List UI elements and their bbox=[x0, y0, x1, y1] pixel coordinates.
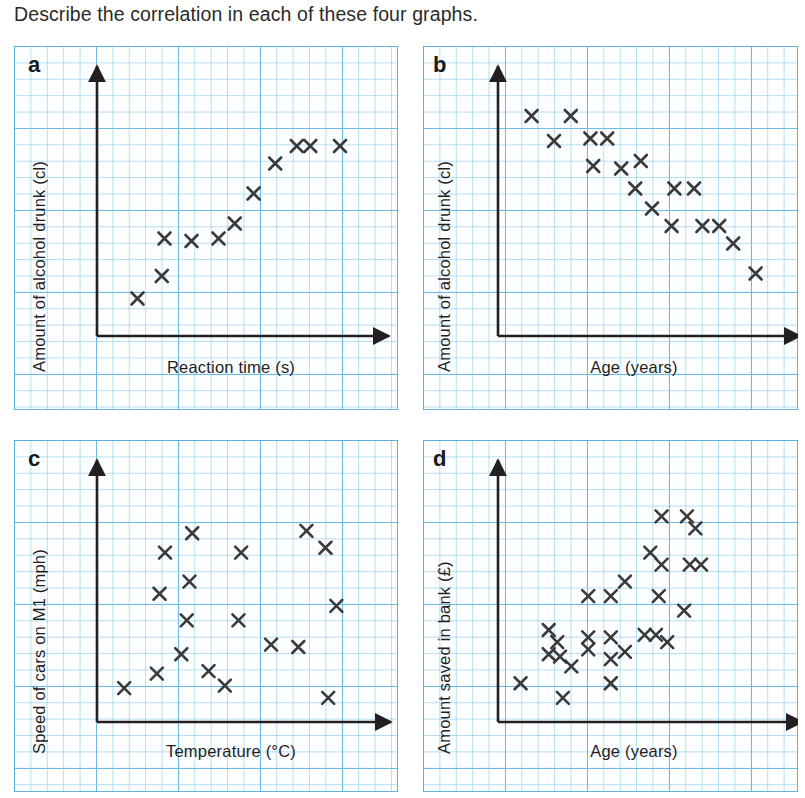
data-point-cross-marker bbox=[619, 576, 631, 588]
data-point-cross-marker bbox=[656, 559, 668, 571]
data-point-cross-marker bbox=[132, 293, 144, 305]
data-point-cross-marker bbox=[629, 183, 641, 195]
data-point-cross-marker bbox=[515, 677, 527, 689]
data-point-cross-marker bbox=[695, 559, 707, 571]
data-point-cross-marker bbox=[159, 547, 171, 559]
panel-letter-b: b bbox=[433, 54, 446, 76]
scatter-plot-c bbox=[14, 440, 398, 792]
data-point-cross-marker bbox=[183, 576, 195, 588]
data-point-cross-marker bbox=[159, 233, 171, 245]
data-point-cross-marker bbox=[229, 218, 241, 230]
data-point-cross-marker bbox=[322, 692, 334, 704]
graph-panel-d: d Amount saved in bank (£) Age (years) bbox=[423, 440, 798, 792]
data-point-cross-marker bbox=[584, 133, 596, 145]
data-point-cross-marker bbox=[656, 510, 668, 522]
data-point-cross-marker bbox=[181, 614, 193, 626]
data-point-group bbox=[118, 525, 342, 704]
data-point-cross-marker bbox=[601, 133, 613, 145]
graph-panel-a: a Amount of alcohol drunk (cl) Reaction … bbox=[14, 46, 398, 410]
data-point-cross-marker bbox=[269, 158, 281, 170]
data-point-cross-marker bbox=[334, 140, 346, 152]
data-point-cross-marker bbox=[639, 629, 651, 641]
x-axis-label-b: Age (years) bbox=[489, 358, 779, 377]
data-point-cross-marker bbox=[156, 270, 168, 282]
data-point-cross-marker bbox=[582, 590, 594, 602]
data-point-cross-marker bbox=[248, 188, 260, 200]
data-point-group bbox=[515, 510, 707, 704]
x-axis-label-d: Age (years) bbox=[489, 742, 779, 761]
y-axis-label-c: Speed of cars on M1 (mph) bbox=[30, 472, 49, 754]
data-point-cross-marker bbox=[727, 238, 739, 250]
data-point-cross-marker bbox=[653, 590, 665, 602]
y-axis-label-b: Amount of alcohol drunk (cl) bbox=[435, 82, 454, 372]
data-point-cross-marker bbox=[330, 600, 342, 612]
y-axis-label-a: Amount of alcohol drunk (cl) bbox=[30, 82, 49, 372]
scatter-svg-a bbox=[14, 46, 398, 410]
scatter-svg-c bbox=[14, 440, 398, 792]
panel-letter-d: d bbox=[433, 448, 446, 470]
y-axis-label-d: Amount saved in bank (£) bbox=[435, 472, 454, 754]
data-point-cross-marker bbox=[619, 646, 631, 658]
data-point-cross-marker bbox=[666, 220, 678, 232]
scatter-svg-d bbox=[423, 440, 798, 792]
data-point-cross-marker bbox=[548, 135, 560, 147]
data-point-cross-marker bbox=[203, 665, 215, 677]
data-point-cross-marker bbox=[300, 525, 312, 537]
data-point-cross-marker bbox=[605, 590, 617, 602]
data-point-cross-marker bbox=[678, 605, 690, 617]
data-point-cross-marker bbox=[689, 522, 701, 534]
data-point-cross-marker bbox=[635, 155, 647, 167]
page-title: Describe the correlation in each of thes… bbox=[14, 3, 478, 26]
data-point-cross-marker bbox=[605, 653, 617, 665]
data-point-cross-marker bbox=[587, 160, 599, 172]
data-point-cross-marker bbox=[713, 220, 725, 232]
data-point-group bbox=[526, 110, 762, 280]
x-axis-label-c: Temperature (°C) bbox=[86, 742, 376, 761]
panel-letter-a: a bbox=[28, 54, 40, 76]
data-point-cross-marker bbox=[292, 641, 304, 653]
graph-panel-c: c Speed of cars on M1 (mph) Temperature … bbox=[14, 440, 398, 792]
data-point-cross-marker bbox=[582, 631, 594, 643]
data-point-cross-marker bbox=[615, 163, 627, 175]
data-point-cross-marker bbox=[291, 140, 303, 152]
data-point-cross-marker bbox=[543, 624, 555, 636]
graph-panel-b: b Amount of alcohol drunk (cl) Age (year… bbox=[423, 46, 798, 410]
scatter-plot-b bbox=[423, 46, 798, 410]
data-point-cross-marker bbox=[235, 547, 247, 559]
data-point-cross-marker bbox=[151, 668, 163, 680]
data-point-cross-marker bbox=[681, 510, 693, 522]
data-point-cross-marker bbox=[605, 631, 617, 643]
data-point-cross-marker bbox=[186, 235, 198, 247]
data-point-cross-marker bbox=[565, 110, 577, 122]
scatter-plot-a bbox=[14, 46, 398, 410]
data-point-cross-marker bbox=[565, 660, 577, 672]
data-point-cross-marker bbox=[696, 220, 708, 232]
data-point-cross-marker bbox=[750, 268, 762, 280]
data-point-cross-marker bbox=[526, 110, 538, 122]
data-point-cross-marker bbox=[232, 614, 244, 626]
data-point-cross-marker bbox=[644, 547, 656, 559]
panel-letter-c: c bbox=[28, 448, 40, 470]
data-point-cross-marker bbox=[118, 682, 130, 694]
data-point-cross-marker bbox=[551, 636, 563, 648]
data-point-cross-marker bbox=[175, 648, 187, 660]
data-point-cross-marker bbox=[557, 692, 569, 704]
data-point-cross-marker bbox=[304, 140, 316, 152]
data-point-cross-marker bbox=[684, 559, 696, 571]
data-point-cross-marker bbox=[219, 680, 231, 692]
data-point-cross-marker bbox=[154, 588, 166, 600]
x-axis-label-a: Reaction time (s) bbox=[86, 358, 376, 377]
data-point-cross-marker bbox=[646, 203, 658, 215]
data-point-cross-marker bbox=[661, 636, 673, 648]
data-point-cross-marker bbox=[582, 643, 594, 655]
data-point-cross-marker bbox=[186, 527, 198, 539]
data-point-cross-marker bbox=[688, 183, 700, 195]
data-point-cross-marker bbox=[213, 233, 225, 245]
data-point-cross-marker bbox=[650, 629, 662, 641]
data-point-cross-marker bbox=[605, 677, 617, 689]
scatter-plot-d bbox=[423, 440, 798, 792]
data-point-cross-marker bbox=[265, 639, 277, 651]
data-point-cross-marker bbox=[319, 542, 331, 554]
data-point-cross-marker bbox=[668, 183, 680, 195]
scatter-svg-b bbox=[423, 46, 798, 410]
